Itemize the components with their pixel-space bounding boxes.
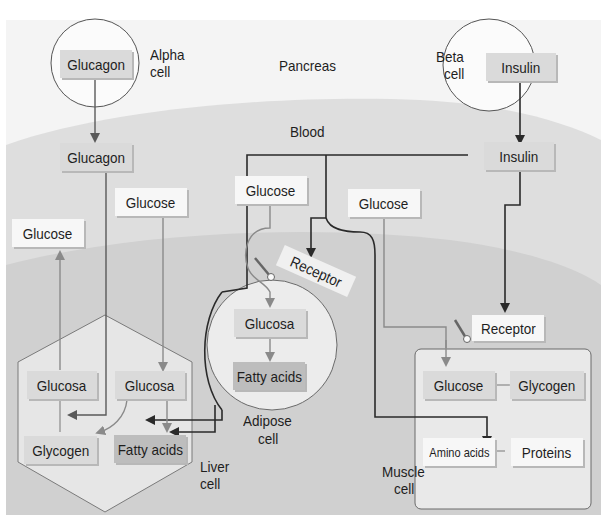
muscle-receptor-label: Receptor	[472, 315, 544, 341]
alpha-cell-label-2: cell	[150, 64, 170, 80]
blood-glucose-liver-box: Glucose	[115, 188, 187, 216]
liver-fatty-acids-box: Fatty acids	[114, 435, 186, 463]
alpha-cell-label-1: Alpha	[150, 47, 185, 63]
muscle-glucose-box: Glucose	[423, 371, 495, 399]
muscle-proteins-box: Proteins	[511, 438, 583, 466]
liver-glucosa-left-box: Glucosa	[27, 371, 97, 399]
adipose-cell-label-1: Adipose	[243, 413, 292, 429]
liver-glycogen-box: Glycogen	[24, 436, 97, 464]
adipose-fatty-acids-box: Fatty acids	[233, 362, 305, 390]
pancreas-label: Pancreas	[279, 58, 336, 74]
muscle-cell-label-1: Muscle	[382, 464, 425, 480]
beta-cell-label-1: Beta	[436, 49, 464, 65]
muscle-cell-label-2: cell	[394, 481, 414, 497]
liver-glucosa-right-box: Glucosa	[115, 371, 185, 399]
blood-glucose-left-box: Glucose	[12, 219, 84, 247]
beta-insulin-box: Insulin	[486, 53, 556, 81]
blood-glucagon-box: Glucagon	[60, 143, 132, 171]
blood-glucose-muscle-box: Glucose	[348, 189, 420, 217]
muscle-receptor-head	[464, 336, 471, 343]
blood-insulin-box: Insulin	[484, 142, 554, 170]
alpha-glucagon-box: Glucagon	[60, 50, 132, 78]
adipose-cell-circle	[207, 280, 337, 410]
adipose-receptor-head	[268, 274, 275, 281]
blood-label: Blood	[290, 124, 325, 140]
adipose-glucosa-box: Glucosa	[234, 309, 306, 337]
beta-cell-label-2: cell	[444, 66, 464, 82]
adipose-cell-label-2: cell	[258, 431, 278, 447]
muscle-glycogen-box: Glycogen	[510, 371, 584, 399]
liver-cell-label-2: cell	[200, 476, 220, 492]
liver-cell-label-1: Liver	[200, 459, 229, 475]
glucose-regulation-diagram: Pancreas Blood Alpha cell Glucagon Beta …	[0, 0, 601, 518]
muscle-amino-acids-box: Amino acids	[423, 438, 495, 466]
blood-glucose-adipose-box: Glucose	[235, 176, 307, 204]
